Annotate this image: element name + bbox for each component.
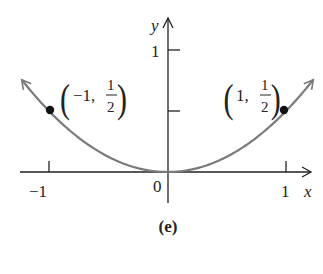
left-x-value: −1,	[73, 86, 95, 105]
right-frac-num: 1	[261, 77, 269, 93]
left-paren-open: (	[60, 76, 70, 121]
right-paren-open: (	[224, 76, 234, 121]
point-left-dot	[46, 106, 54, 114]
y-axis-label: y	[149, 16, 159, 35]
y-tick-label-1: 1	[151, 42, 160, 61]
point-right-dot	[280, 106, 288, 114]
parabola-figure: y x 1 −1 1 0 ( −1, 1 2 ) ( 1, 1 2 ) (e)	[0, 0, 323, 274]
figure-caption: (e)	[159, 217, 178, 236]
x-tick-label-neg1: −1	[29, 182, 47, 201]
right-frac-den: 2	[261, 99, 269, 115]
origin-label: 0	[153, 177, 162, 196]
x-axis-label: x	[303, 182, 312, 201]
right-point-label: ( 1, 1 2 )	[224, 76, 281, 121]
x-tick-label-1: 1	[281, 182, 290, 201]
left-point-label: ( −1, 1 2 )	[60, 76, 127, 121]
left-paren-close: )	[117, 76, 127, 121]
left-frac-den: 2	[107, 99, 115, 115]
left-frac-num: 1	[107, 77, 115, 93]
right-paren-close: )	[271, 76, 281, 121]
right-x-value: 1,	[236, 86, 249, 105]
